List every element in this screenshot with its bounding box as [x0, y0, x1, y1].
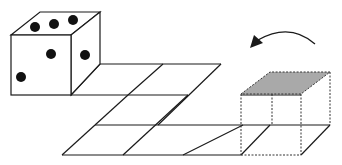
die	[11, 12, 100, 95]
rotation-arrow-icon	[250, 32, 315, 48]
diagram-canvas	[0, 0, 342, 165]
dice-rolling-diagram: Die rolling over a grid of squares; the …	[0, 0, 342, 165]
shaded-top-face	[241, 72, 330, 94]
die-front-face	[11, 35, 71, 95]
target-cube	[241, 72, 330, 155]
